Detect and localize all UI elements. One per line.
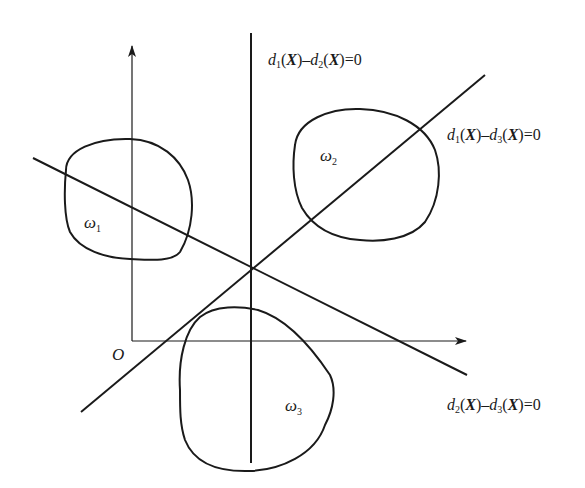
- fn-name: d: [268, 51, 276, 68]
- class-symbol: ω: [84, 213, 96, 232]
- equation-rhs: =0: [524, 126, 541, 143]
- class-symbol: ω: [285, 396, 297, 415]
- fn-index: 2: [318, 59, 323, 70]
- fn-arg: X: [329, 51, 340, 68]
- fn-index: 3: [497, 134, 502, 145]
- fn-arg: X: [508, 126, 519, 143]
- fn-index: 2: [455, 404, 460, 415]
- fn-name: d: [447, 396, 455, 413]
- fn-arg: X: [508, 396, 519, 413]
- class-index: 1: [96, 223, 101, 234]
- origin-text: O: [112, 345, 124, 364]
- class-symbol: ω: [320, 146, 332, 165]
- fn-name: d: [447, 126, 455, 143]
- boundary-label-d2-d3: d2(X)–d3(X)=0: [447, 397, 541, 415]
- class-index: 2: [332, 156, 337, 167]
- class-label-omega-2: ω2: [320, 147, 337, 167]
- fn-index: 3: [497, 404, 502, 415]
- fn-index: 1: [455, 134, 460, 145]
- origin-label: O: [112, 346, 124, 363]
- boundary-label-d1-d3: d1(X)–d3(X)=0: [447, 127, 541, 145]
- class-index: 3: [297, 406, 302, 417]
- fn-arg: X: [465, 396, 476, 413]
- boundary-label-d1-d2: d1(X)–d2(X)=0: [268, 52, 362, 70]
- fn-arg: X: [465, 126, 476, 143]
- class-region-omega-1: [65, 139, 192, 260]
- fn-arg: X: [286, 51, 297, 68]
- equation-rhs: =0: [345, 51, 362, 68]
- fn-index: 1: [276, 59, 281, 70]
- class-label-omega-1: ω1: [84, 214, 101, 234]
- class-region-omega-3: [180, 307, 334, 471]
- equation-rhs: =0: [524, 396, 541, 413]
- boundary-line-d1-d3: [81, 75, 485, 412]
- class-label-omega-3: ω3: [285, 397, 302, 417]
